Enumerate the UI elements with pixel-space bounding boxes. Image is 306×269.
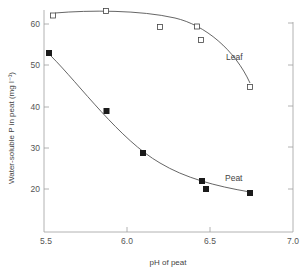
axes (44, 10, 293, 232)
leaf-markers (51, 9, 253, 90)
x-tick-7.0: 7.0 (287, 236, 299, 246)
leaf-curve (55, 11, 250, 83)
peat-point (247, 190, 253, 196)
y-tick-50: 50 (31, 60, 41, 70)
leaf-series-label: Leaf (226, 52, 243, 62)
x-axis-label: pH of peat (150, 258, 188, 267)
peat-point (203, 186, 209, 192)
chart: 60 50 40 30 20 5.5 6.0 6.5 7.0 pH of pea… (0, 0, 306, 269)
leaf-point (104, 9, 109, 14)
peat-point (140, 150, 146, 156)
y-axis-label: Water-soluble P in peat (mg l⁻¹) (7, 72, 16, 184)
peat-point (104, 108, 110, 114)
x-tick-6.5: 6.5 (204, 236, 216, 246)
leaf-point (199, 38, 204, 43)
leaf-point (248, 85, 253, 90)
y-tick-40: 40 (31, 102, 41, 112)
peat-point (46, 50, 52, 56)
leaf-point (158, 25, 163, 30)
leaf-point (195, 24, 200, 29)
leaf-point (51, 13, 56, 18)
x-tick-5.5: 5.5 (40, 236, 52, 246)
x-tick-6.0: 6.0 (121, 236, 133, 246)
y-tick-20: 20 (31, 184, 41, 194)
peat-series-label: Peat (225, 173, 243, 183)
y-tick-30: 30 (31, 143, 41, 153)
peat-curve (51, 56, 250, 192)
y-tick-60: 60 (31, 19, 41, 29)
peat-markers (46, 50, 253, 196)
peat-point (199, 178, 205, 184)
